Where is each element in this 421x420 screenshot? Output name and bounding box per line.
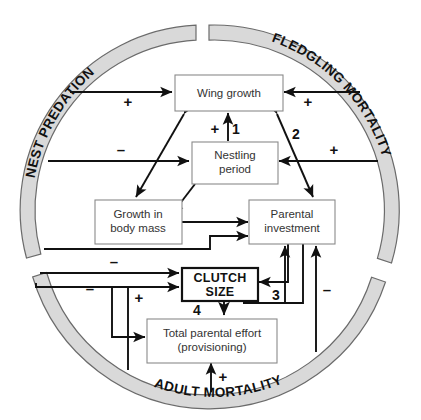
sign-fledgling-to-wing: + xyxy=(304,93,313,110)
sign-effort-riser-plus: + xyxy=(135,289,144,306)
wing-growth-label: Wing growth xyxy=(197,87,261,99)
sign-predation-to-nestling: – xyxy=(117,141,125,158)
total-parental-effort-label-line1: Total parental effort xyxy=(163,327,262,339)
parental-investment-label-line1: Parental xyxy=(271,208,314,220)
nestling-period-label-line1: Nestling xyxy=(214,149,256,161)
diagram-svg: NEST PREDATION FLEDGLING MORTALITY ADULT… xyxy=(0,0,421,420)
link-number-1: 1 xyxy=(232,121,240,137)
node-clutch-size[interactable]: CLUTCH SIZE xyxy=(182,268,258,301)
sign-predation-to-clutch-a: – xyxy=(110,253,118,270)
nestling-period-label-line2: period xyxy=(219,163,251,175)
edge-parental-investment-to-clutch-size-3 xyxy=(259,244,288,282)
link-number-2: 2 xyxy=(292,126,300,142)
node-total-parental-effort[interactable]: Total parental effort (provisioning) xyxy=(147,319,277,363)
sign-fledgling-to-nestling: + xyxy=(330,141,339,158)
sign-predation-to-clutch-b: – xyxy=(86,280,94,297)
clutch-size-label-line2: SIZE xyxy=(206,285,235,299)
edge-predation-to-clutch-size-b xyxy=(36,283,179,287)
sign-nestling-to-wing: + xyxy=(211,120,220,137)
growth-body-mass-label-line1: Growth in xyxy=(113,208,162,220)
node-nestling-period[interactable]: Nestling period xyxy=(192,142,278,184)
parental-investment-label-line2: investment xyxy=(264,222,320,234)
figure-canvas: NEST PREDATION FLEDGLING MORTALITY ADULT… xyxy=(0,0,421,420)
link-number-4: 4 xyxy=(193,302,201,318)
node-parental-investment[interactable]: Parental investment xyxy=(249,200,335,244)
sign-fledgling-to-parental: – xyxy=(323,281,331,298)
node-wing-growth[interactable]: Wing growth xyxy=(175,75,283,111)
sign-adult-to-total-effort: + xyxy=(219,368,228,385)
link-number-3: 3 xyxy=(272,287,280,303)
clutch-size-label-line1: CLUTCH xyxy=(193,271,246,285)
sign-predation-to-wing: + xyxy=(124,93,133,110)
growth-body-mass-label-line2: body mass xyxy=(110,222,166,234)
edge-wing-growth-growth-body-mass xyxy=(136,114,184,197)
node-growth-in-body-mass[interactable]: Growth in body mass xyxy=(95,200,182,244)
total-parental-effort-label-line2: (provisioning) xyxy=(177,341,246,353)
